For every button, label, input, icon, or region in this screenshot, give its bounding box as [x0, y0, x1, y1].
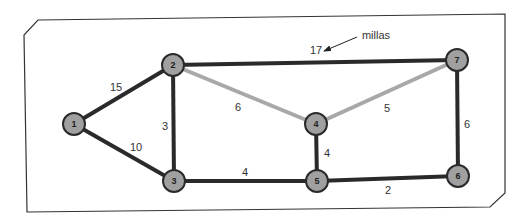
edge-weight-5-6: 2 — [385, 184, 391, 196]
edge-5-6 — [317, 176, 458, 181]
edge-2-7 — [173, 60, 457, 65]
edge-4-7 — [316, 60, 457, 124]
node-6: 6 — [446, 164, 470, 188]
edge-2-4 — [173, 65, 316, 124]
edge-1-3 — [74, 124, 174, 181]
edge-weight-2-3: 3 — [162, 120, 168, 132]
node-5: 5 — [305, 169, 329, 193]
edge-weight-2-7: 17 — [310, 44, 322, 56]
node-7: 7 — [445, 48, 469, 72]
edge-weight-1-2: 15 — [110, 81, 122, 93]
node-1: 1 — [62, 112, 86, 136]
node-3: 3 — [162, 169, 186, 193]
node-2: 2 — [161, 53, 185, 77]
edge-weight-4-7: 5 — [384, 102, 390, 114]
edge-7-6 — [457, 60, 458, 176]
graph-diagram: millas 15 10 3 17 6 5 4 4 2 6 1 2 3 4 5 … — [0, 0, 519, 224]
edge-weight-1-3: 10 — [130, 141, 142, 153]
edge-weight-3-5: 4 — [242, 166, 248, 178]
annotation-label: millas — [362, 29, 390, 41]
edge-weight-4-5: 4 — [324, 147, 330, 159]
edge-2-3 — [173, 65, 174, 181]
annotation-arrow — [324, 37, 357, 51]
node-4: 4 — [304, 112, 328, 136]
edge-weight-7-6: 6 — [464, 118, 470, 130]
edge-weight-2-4: 6 — [235, 101, 241, 113]
edge-1-2 — [74, 65, 173, 124]
